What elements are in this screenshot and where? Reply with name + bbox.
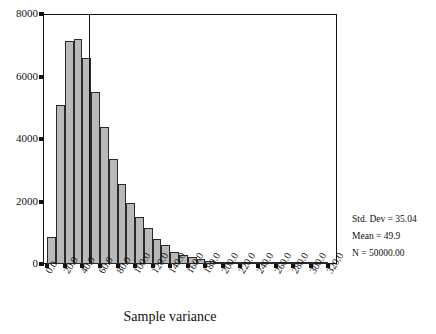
x-axis-title: Sample variance [0,309,340,325]
bar-series [43,14,337,264]
y-axis-tick-label: 0 [2,258,38,269]
y-axis-tick-label: 2000 [2,196,38,207]
histogram-bar [91,92,100,264]
histogram-bar [109,159,118,264]
histogram-bar [126,203,135,264]
y-axis-tick-label: 8000 [2,8,38,19]
stat-mean: Mean = 49.9 [352,231,436,241]
mean-reference-line [89,14,90,264]
statistics-annotation: Std. Dev = 35.04 Mean = 49.9 N = 50000.0… [352,214,436,265]
stat-n: N = 50000.00 [352,248,436,258]
stat-std-dev: Std. Dev = 35.04 [352,214,436,224]
histogram-bar [100,127,109,265]
histogram-bar [65,41,74,264]
histogram-figure: 02000400060008000 0.020.040.060.080.0100… [0,0,436,334]
y-axis-tick-label: 4000 [2,133,38,144]
y-axis-tick-label: 6000 [2,71,38,82]
histogram-bar [56,105,65,264]
histogram-bar [118,184,127,264]
histogram-bar [74,39,83,264]
histogram-bar [82,58,91,264]
